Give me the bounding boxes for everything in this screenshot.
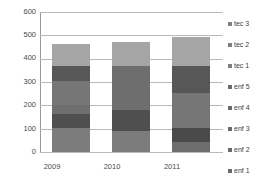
x-tick-2011: 2011 <box>142 162 202 171</box>
legend-label: enf 2 <box>234 146 250 154</box>
bar-segment-2009-enf4 <box>52 81 90 106</box>
bar-segment-2011-enf1 <box>172 142 210 153</box>
legend-label: tec 3 <box>234 20 249 28</box>
bar-segment-2011-tec2 <box>172 37 210 66</box>
bar-segment-2010-enf4 <box>112 66 150 110</box>
y-tick-500: 500 <box>2 31 36 39</box>
legend-label: tec 1 <box>234 62 249 70</box>
legend-swatch-icon <box>228 148 232 152</box>
bar-segment-2009-tec2 <box>52 44 90 66</box>
legend-label: enf 4 <box>234 104 250 112</box>
plot-area <box>40 12 223 152</box>
legend-label: enf 3 <box>234 125 250 133</box>
x-tick-2010: 2010 <box>82 162 142 171</box>
legend-item-enf-2[interactable]: enf 2 <box>228 145 250 154</box>
legend-label: enf 5 <box>234 83 250 91</box>
gridline-0 <box>40 152 223 153</box>
bar-segment-2011-enf4 <box>172 93 210 128</box>
y-tick-600: 600 <box>2 8 36 16</box>
y-tick-0: 0 <box>2 148 36 156</box>
legend-item-enf-3[interactable]: enf 3 <box>228 124 250 133</box>
legend-label: tec 2 <box>234 41 249 49</box>
bar-segment-2010-enf1 <box>112 131 150 152</box>
bar-segment-2011-enf2 <box>172 128 210 142</box>
y-tick-300: 300 <box>2 78 36 86</box>
legend-item-enf-5[interactable]: enf 5 <box>228 82 250 91</box>
legend-swatch-icon <box>228 127 232 131</box>
stacked-bar-chart: 600 500 400 300 200 100 0 <box>0 0 268 184</box>
bar-segment-2009-enf3 <box>52 105 90 113</box>
y-tick-200: 200 <box>2 101 36 109</box>
legend-swatch-icon <box>228 85 232 89</box>
legend-item-enf-4[interactable]: enf 4 <box>228 103 250 112</box>
legend-label: enf 1 <box>234 167 250 175</box>
y-axis-labels: 600 500 400 300 200 100 0 <box>0 0 36 184</box>
legend-item-tec-3[interactable]: tec 3 <box>228 19 249 28</box>
bar-segment-2009-enf2 <box>52 114 90 128</box>
x-tick-2009: 2009 <box>22 162 82 171</box>
legend-swatch-icon <box>228 106 232 110</box>
y-tick-100: 100 <box>2 125 36 133</box>
legend: tec 3 tec 2 tec 1 enf 5 enf 4 enf 3 enf … <box>228 0 268 184</box>
bar-segment-2011-enf5 <box>172 66 210 93</box>
legend-swatch-icon <box>228 22 232 26</box>
y-tick-400: 400 <box>2 54 36 62</box>
legend-swatch-icon <box>228 169 232 173</box>
bar-segment-2009-enf1 <box>52 128 90 153</box>
legend-item-tec-1[interactable]: tec 1 <box>228 61 249 70</box>
legend-item-tec-2[interactable]: tec 2 <box>228 40 249 49</box>
legend-swatch-icon <box>228 43 232 47</box>
bar-segment-2010-enf2 <box>112 110 150 131</box>
gridline-600 <box>40 12 223 13</box>
legend-swatch-icon <box>228 64 232 68</box>
legend-item-enf-1[interactable]: enf 1 <box>228 166 250 175</box>
bar-segment-2009-enf5 <box>52 66 90 81</box>
bar-segment-2010-tec1 <box>112 42 150 65</box>
